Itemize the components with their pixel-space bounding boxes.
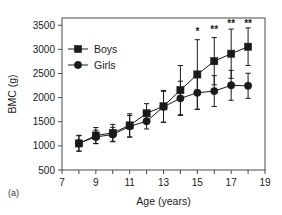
legend-marker-girls	[74, 61, 81, 68]
y-tick-label: 1000	[33, 140, 56, 151]
x-tick-label: 15	[192, 177, 204, 188]
data-point-girls	[109, 131, 116, 138]
legend-label-girls: Girls	[94, 59, 116, 71]
data-point-girls	[177, 95, 184, 102]
bmc-vs-age-line-chart: 791113151719500100015002000250030003500A…	[0, 0, 282, 215]
x-tick-label: 17	[226, 177, 238, 188]
data-point-boys	[211, 58, 218, 65]
y-tick-label: 1500	[33, 116, 56, 127]
x-tick-label: 19	[259, 177, 271, 188]
data-point-girls	[194, 89, 201, 96]
x-tick-label: 9	[93, 177, 99, 188]
significance-marker: **	[244, 18, 252, 29]
x-tick-label: 7	[59, 177, 65, 188]
data-point-girls	[126, 123, 133, 130]
figure-panel-a: 791113151719500100015002000250030003500A…	[0, 0, 282, 215]
significance-marker: *	[195, 26, 199, 37]
data-point-boys	[244, 43, 251, 50]
data-point-boys	[228, 50, 235, 57]
y-axis-title: BMC (g)	[6, 74, 18, 113]
data-point-girls	[143, 118, 150, 125]
data-point-girls	[244, 82, 251, 89]
data-point-girls	[211, 87, 218, 94]
significance-marker: **	[210, 24, 218, 35]
y-tick-label: 2000	[33, 92, 56, 103]
data-point-girls	[75, 140, 82, 147]
y-tick-label: 500	[38, 165, 55, 176]
legend-label-boys: Boys	[94, 43, 117, 55]
x-tick-label: 13	[158, 177, 170, 188]
x-tick-label: 11	[124, 177, 135, 188]
y-tick-label: 3500	[33, 20, 56, 31]
legend-marker-boys	[74, 45, 81, 52]
data-point-girls	[227, 82, 234, 89]
panel-label: (a)	[8, 188, 19, 198]
data-point-girls	[160, 103, 167, 110]
x-axis-title: Age (years)	[136, 195, 190, 207]
significance-marker: **	[227, 18, 235, 29]
data-point-girls	[92, 133, 99, 140]
y-tick-label: 3000	[33, 44, 56, 55]
y-tick-label: 2500	[33, 68, 56, 79]
